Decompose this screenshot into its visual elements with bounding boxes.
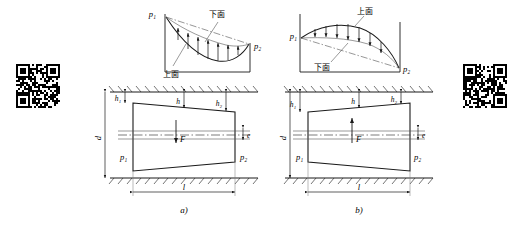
leader-bottom-a — [173, 44, 186, 66]
panel-b-h-label: h — [351, 97, 355, 106]
panel-a-section: F h₁ h h₂ d e l p₁ p₂ — [93, 86, 258, 196]
panel-a-h1-label: h₁ — [115, 94, 122, 103]
panel-b-section-p2-label: p₂ — [413, 152, 421, 162]
pressure-arrows-b — [315, 24, 381, 53]
qr-code-left — [16, 64, 60, 108]
panel-b-section: F h₁ h h₂ d e l p₁ p₂ — [278, 86, 433, 196]
panel-b-caption: b) — [355, 205, 363, 215]
panel-a-h-label: h — [176, 97, 180, 106]
panel-a-curve-top-label: 下面 — [209, 10, 225, 19]
panel-a-plot-p1-label: p₁ — [148, 9, 156, 19]
panel-a-e-label: e — [247, 131, 251, 140]
panel-a-pressure-plot: p₁ p₂ 下面 上面 — [148, 9, 261, 79]
panel-b-curve-top-label: 上面 — [357, 7, 373, 16]
pressure-arrows-a — [178, 28, 238, 61]
panel-b-force-label: F — [355, 134, 362, 144]
panel-b-d-label: d — [278, 135, 288, 140]
panel-b-h2-label: h₂ — [391, 95, 398, 104]
panel-a: p₁ p₂ 下面 上面 — [93, 9, 261, 215]
panel-a-caption: a) — [180, 205, 188, 215]
panel-b: p₁ p₂ 上面 下面 — [278, 7, 433, 215]
panel-a-d-label: d — [93, 135, 103, 140]
panel-b-section-p1-label: p₁ — [295, 152, 303, 162]
panel-b-l-label: l — [358, 182, 361, 192]
qr-code-right — [463, 64, 507, 108]
pressure-curve-b — [301, 25, 399, 68]
figure-root: p₁ p₂ 下面 上面 — [0, 0, 525, 230]
panel-b-plot-p2-label: p₂ — [402, 64, 410, 74]
technical-diagram-svg: p₁ p₂ 下面 上面 — [0, 0, 525, 230]
panel-a-l-label: l — [183, 182, 186, 192]
plot-frame-a — [165, 14, 250, 72]
panel-a-section-p2-label: p₂ — [239, 152, 247, 162]
panel-b-curve-bottom-label: 下面 — [314, 63, 330, 72]
panel-b-plot-p1-label: p₁ — [289, 31, 297, 41]
top-wall-hatch-a — [109, 86, 258, 92]
panel-a-h2-label: h₂ — [216, 99, 223, 108]
panel-a-force-label: F — [179, 134, 186, 144]
leader-top-b — [355, 16, 364, 26]
panel-b-h1-label: h₁ — [290, 100, 297, 109]
top-wall-hatch-b — [284, 86, 433, 92]
leader-bottom-b — [331, 43, 348, 62]
chord-line-a — [166, 17, 249, 44]
panel-a-plot-p2-label: p₂ — [253, 41, 261, 51]
panel-b-pressure-plot: p₁ p₂ 上面 下面 — [289, 7, 410, 74]
leader-top-a — [205, 22, 218, 42]
panel-a-curve-bottom-label: 上面 — [163, 70, 179, 79]
panel-a-section-p1-label: p₁ — [119, 152, 127, 162]
panel-b-e-label: e — [422, 131, 426, 140]
